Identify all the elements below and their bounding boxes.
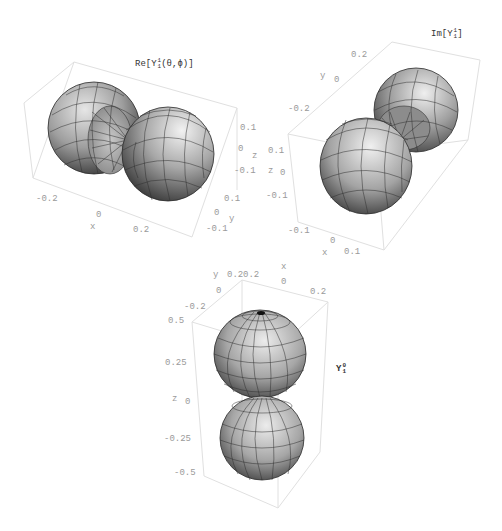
x-axis-label: x <box>90 222 95 232</box>
x-tick: 0.2 <box>133 225 149 235</box>
z-tick: -0.25 <box>164 434 191 444</box>
z-tick: 0 <box>280 168 285 178</box>
z-tick: 0.1 <box>268 146 284 156</box>
plot-re-y11-graphic <box>0 0 250 250</box>
y-tick: 0 <box>214 208 219 218</box>
z-tick: 0.5 <box>168 316 184 326</box>
lower-lobe <box>220 396 304 480</box>
z-tick: 0.25 <box>165 358 187 368</box>
x-tick: 0.2 <box>310 287 326 297</box>
z-tick: -0.1 <box>266 191 288 201</box>
plot-re-y11: Re[Y11(θ,ϕ)] -0.2 0 0.2 x 0.1 0 -0.1 y 0… <box>0 0 250 250</box>
y-tick: -0.1 <box>206 224 228 234</box>
front-lobe <box>320 118 412 214</box>
plot-title: Re[Y11(θ,ϕ)] <box>135 58 194 70</box>
y-tick: 0.2 <box>351 50 367 60</box>
y-axis-label: y <box>229 214 234 224</box>
y-tick: 0.2 <box>227 270 243 280</box>
x-axis-label: x <box>281 262 286 272</box>
x-tick: -0.1 <box>288 226 310 236</box>
y-tick: 0 <box>216 286 221 296</box>
z-axis-label: z <box>172 394 177 404</box>
x-tick: 0 <box>330 236 335 246</box>
x-tick: 0.2 <box>243 270 259 280</box>
plot-im-y11: Im[Y11] 0.2 0 -0.2 y 0.1 0 -0.1 z -0.1 0… <box>250 0 502 270</box>
z-tick: 0 <box>238 144 243 154</box>
right-lobe <box>122 107 214 201</box>
x-tick: -0.2 <box>36 194 58 204</box>
z-tick: 0 <box>185 397 190 407</box>
y-tick: -0.2 <box>288 104 310 114</box>
x-tick: 0.1 <box>344 247 360 257</box>
plot-title: Y01 <box>336 363 346 375</box>
z-tick: -0.5 <box>174 468 196 478</box>
plot-title: Im[Y11] <box>431 28 463 40</box>
y-tick: 0.1 <box>224 194 240 204</box>
upper-lobe <box>214 310 306 398</box>
x-tick: 0 <box>96 210 101 220</box>
x-axis-label: x <box>322 248 327 258</box>
y-tick: -0.2 <box>184 302 206 312</box>
z-axis-label: z <box>268 166 273 176</box>
y-tick: 0 <box>334 75 339 85</box>
y-axis-label: y <box>213 270 218 280</box>
x-tick: 0 <box>281 277 286 287</box>
plot-y10: Y01 y 0.2 0 -0.2 x 0.2 0 0.2 0.5 0.25 z … <box>150 260 400 531</box>
plot-y10-graphic <box>150 260 400 531</box>
y-axis-label: y <box>320 71 325 81</box>
